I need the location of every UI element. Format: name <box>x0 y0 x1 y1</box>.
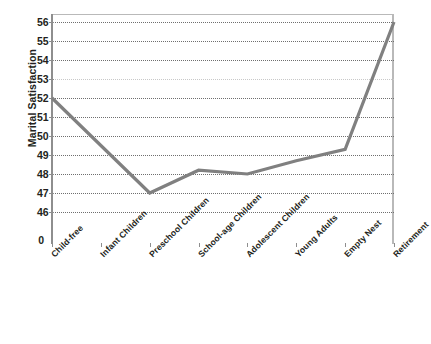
y-tick-label-49: 49 <box>37 149 44 161</box>
series-marital-satisfaction <box>52 14 394 243</box>
y-tick-label-46: 46 <box>37 206 44 218</box>
y-tick-label-50: 50 <box>37 130 44 142</box>
y-tick-label-48: 48 <box>37 168 44 180</box>
x-tickmark-2 <box>150 243 151 247</box>
y-tick-label-55: 55 <box>37 35 44 47</box>
y-tick-label-53: 53 <box>37 73 44 85</box>
y-tick-label-52: 52 <box>37 92 44 104</box>
y-tick-label-0: 0 <box>37 234 44 246</box>
y-tick-label-56: 56 <box>37 16 44 28</box>
y-tick-label-47: 47 <box>37 187 44 199</box>
y-tick-label-51: 51 <box>37 111 44 123</box>
y-tick-label-54: 54 <box>37 54 44 66</box>
x-tickmark-3 <box>199 243 200 247</box>
series-line <box>52 22 394 193</box>
x-tick-label-7: Retirement <box>391 220 431 260</box>
